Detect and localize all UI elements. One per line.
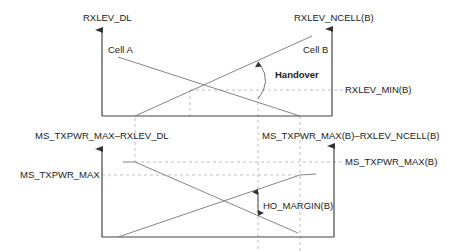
cell-a-label: Cell A <box>108 45 133 55</box>
cell-a-curve <box>118 57 300 116</box>
ho-margin-label: HO_MARGIN(B) <box>263 201 333 211</box>
cell-b-label: Cell B <box>303 45 328 55</box>
handover-diagram <box>0 0 450 251</box>
handover-arc-arrow-icon <box>258 64 266 99</box>
top-right-axis-label: RXLEV_NCELL(B) <box>294 13 374 23</box>
ms-txpwr-max-label: MS_TXPWR_MAX <box>20 170 100 180</box>
top-guides <box>135 90 352 251</box>
top-left-axis-label: RXLEV_DL <box>83 13 132 23</box>
bottom-right-axis-label: MS_TXPWR_MAX(B)–RXLEV_NCELL(B) <box>262 131 439 141</box>
rxlev-min-label: RXLEV_MIN(B) <box>345 85 412 95</box>
bottom-guides <box>96 162 343 175</box>
ms-txpwr-max-b-label: MS_TXPWR_MAX(B) <box>345 157 437 167</box>
bottom-left-axis-label: MS_TXPWR_MAX–RXLEV_DL <box>35 131 169 141</box>
handover-label: Handover <box>275 70 319 80</box>
cell-a-power-curve <box>123 162 298 233</box>
bottom-panel <box>96 146 343 237</box>
